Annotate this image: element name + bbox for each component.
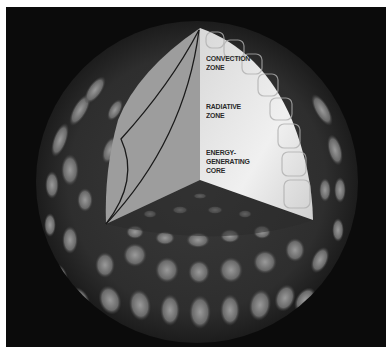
label-line: CORE xyxy=(206,166,250,175)
label-line: CONVECTION xyxy=(206,54,250,63)
label-line: GENERATING xyxy=(206,157,250,166)
label-energy-generating-core: ENERGY- GENERATING CORE xyxy=(206,148,250,175)
label-line: ZONE xyxy=(206,111,241,120)
label-line: ENERGY- xyxy=(206,148,250,157)
label-line: RADIATIVE xyxy=(206,102,241,111)
label-convection-zone: CONVECTION ZONE xyxy=(206,54,250,72)
label-line: ZONE xyxy=(206,63,250,72)
sun-cutaway-diagram xyxy=(0,0,392,354)
label-radiative-zone: RADIATIVE ZONE xyxy=(206,102,241,120)
